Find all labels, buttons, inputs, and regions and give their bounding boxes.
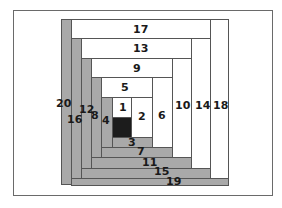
strip-label-13: 13 [133,43,148,54]
strip-17 [71,19,229,39]
strip-1b [112,117,132,138]
strip-label-4: 4 [102,115,110,126]
strip-label-6: 6 [158,110,166,121]
strip-label-8: 8 [91,110,99,121]
strip-label-11: 11 [142,157,157,168]
strip-label-18: 18 [213,100,228,111]
strip-label-9: 9 [133,63,141,74]
strip-15 [81,168,211,179]
strip-label-14: 14 [195,100,210,111]
strip-label-7: 7 [137,146,145,157]
strip-label-3: 3 [128,137,136,148]
strip-label-1: 1 [119,102,127,113]
strip-label-10: 10 [175,100,190,111]
strip-label-17: 17 [133,24,148,35]
strip-19 [71,178,229,186]
strip-label-5: 5 [121,82,129,93]
strip-label-2: 2 [138,111,146,122]
strip-label-20: 20 [56,98,71,109]
